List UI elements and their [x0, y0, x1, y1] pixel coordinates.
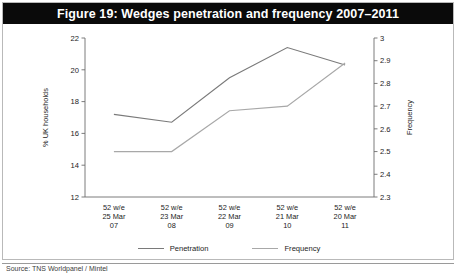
svg-text:Frequency: Frequency: [405, 100, 414, 135]
data-series-group: [114, 48, 345, 152]
svg-text:22 Mar: 22 Mar: [218, 212, 242, 221]
svg-text:22: 22: [71, 34, 79, 43]
svg-text:2.4: 2.4: [380, 170, 391, 179]
svg-text:20: 20: [71, 66, 79, 75]
svg-text:20 Mar: 20 Mar: [334, 212, 358, 221]
svg-text:2.6: 2.6: [380, 125, 391, 134]
svg-text:% UK households: % UK households: [41, 88, 50, 147]
svg-text:23 Mar: 23 Mar: [160, 212, 184, 221]
svg-text:11: 11: [341, 221, 349, 230]
footer-divider: [2, 263, 454, 264]
svg-text:18: 18: [71, 97, 79, 106]
svg-text:52 w/e: 52 w/e: [161, 203, 183, 212]
svg-text:09: 09: [225, 221, 233, 230]
figure-title-bar: Figure 19: Wedges penetration and freque…: [3, 3, 453, 24]
legend-swatch-frequency: [252, 248, 278, 249]
chart-plot-area: 121416182022% UK households 2.32.42.52.6…: [0, 24, 458, 240]
svg-text:2.3: 2.3: [380, 193, 391, 202]
svg-text:14: 14: [71, 161, 79, 170]
svg-text:52 w/e: 52 w/e: [276, 203, 298, 212]
svg-text:2.7: 2.7: [380, 102, 391, 111]
svg-text:07: 07: [110, 221, 118, 230]
y-axis-left: 121416182022% UK households: [41, 34, 85, 202]
legend-item-frequency: Frequency: [252, 244, 320, 253]
y-axis-right: 2.32.42.52.62.72.82.93Frequency: [374, 34, 414, 202]
svg-text:21 Mar: 21 Mar: [276, 212, 300, 221]
svg-text:52 w/e: 52 w/e: [334, 203, 356, 212]
svg-text:25 Mar: 25 Mar: [102, 212, 126, 221]
svg-text:2.9: 2.9: [380, 56, 391, 65]
svg-text:10: 10: [283, 221, 291, 230]
svg-text:16: 16: [71, 129, 79, 138]
svg-text:52 w/e: 52 w/e: [219, 203, 241, 212]
svg-text:2.5: 2.5: [380, 147, 391, 156]
line-chart-svg: 121416182022% UK households 2.32.42.52.6…: [0, 24, 458, 240]
figure-source-note: Source: TNS Worldpanel / Mintel: [6, 265, 306, 273]
svg-text:52 w/e: 52 w/e: [103, 203, 125, 212]
svg-text:12: 12: [71, 193, 79, 202]
svg-text:2.8: 2.8: [380, 79, 391, 88]
legend-item-penetration: Penetration: [138, 244, 209, 253]
chart-legend: Penetration Frequency: [0, 240, 458, 256]
page-title: Figure 19: Wedges penetration and freque…: [57, 7, 399, 21]
svg-text:08: 08: [168, 221, 176, 230]
legend-swatch-penetration: [138, 248, 164, 249]
x-axis: 52 w/e25 Mar0752 w/e23 Mar0852 w/e22 Mar…: [85, 197, 374, 230]
legend-label-penetration: Penetration: [170, 244, 209, 253]
figure-container: Figure 19: Wedges penetration and freque…: [0, 0, 458, 273]
legend-label-frequency: Frequency: [284, 244, 320, 253]
svg-text:3: 3: [380, 34, 384, 43]
